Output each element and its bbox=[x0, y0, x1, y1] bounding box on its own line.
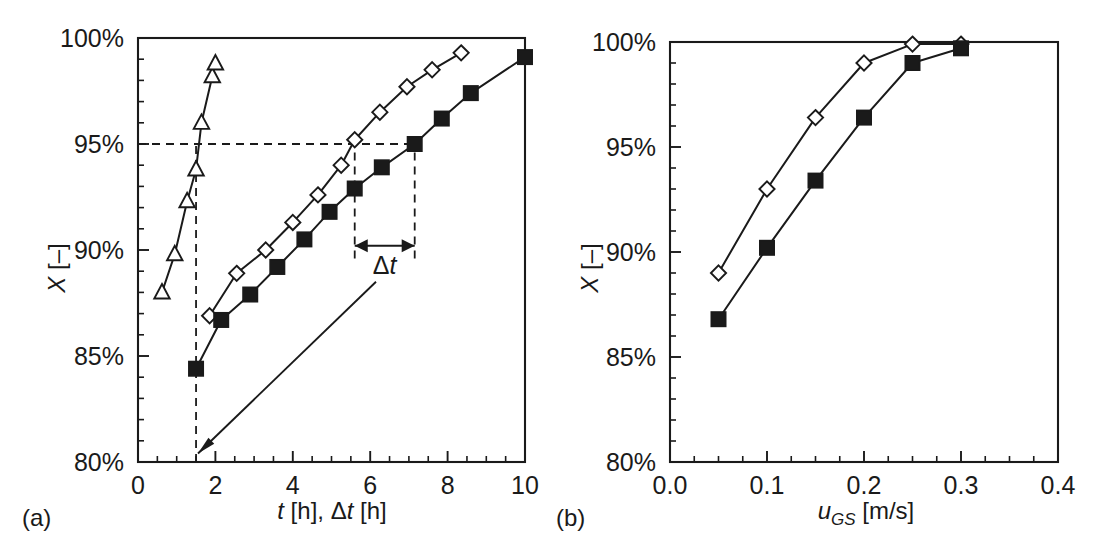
data-point-filled-square bbox=[297, 232, 311, 246]
panel-b-caption-label: (b) bbox=[556, 504, 585, 531]
x-tick-label: 0.4 bbox=[1041, 471, 1076, 499]
data-point-filled-square bbox=[322, 205, 336, 219]
y-tick-label: 95% bbox=[74, 130, 124, 158]
panel-a-x-axis-title: t [h], Δt [h] bbox=[277, 497, 386, 524]
data-point-filled-square bbox=[905, 56, 919, 70]
y-tick-label: 90% bbox=[606, 238, 656, 266]
x-tick-label: 0.1 bbox=[750, 471, 785, 499]
figure-background bbox=[0, 0, 1112, 546]
data-point-filled-square bbox=[270, 260, 284, 274]
y-tick-label: 95% bbox=[606, 133, 656, 161]
data-point-filled-square bbox=[857, 110, 871, 124]
x-tick-label: 0 bbox=[131, 471, 145, 499]
data-point-filled-square bbox=[375, 160, 389, 174]
data-point-filled-square bbox=[464, 86, 478, 100]
panel-a-caption-label: (a) bbox=[22, 504, 51, 531]
y-tick-label: 100% bbox=[60, 24, 124, 52]
panel-b-y-axis-title: X [–] bbox=[576, 243, 603, 293]
data-point-filled-square bbox=[435, 111, 449, 125]
y-tick-label: 80% bbox=[74, 448, 124, 476]
panel-a-y-axis-title: X [–] bbox=[43, 243, 70, 293]
x-tick-label: 8 bbox=[441, 471, 455, 499]
y-tick-label: 100% bbox=[592, 28, 656, 56]
figure-container: 024681080%85%90%95%100% Δt X [–] t [h], … bbox=[0, 0, 1112, 546]
data-point-filled-square bbox=[189, 362, 203, 376]
data-point-filled-square bbox=[243, 287, 257, 301]
x-tick-label: 0.3 bbox=[944, 471, 979, 499]
x-tick-label: 10 bbox=[511, 471, 539, 499]
y-tick-label: 80% bbox=[606, 448, 656, 476]
x-tick-label: 0.2 bbox=[847, 471, 882, 499]
x-tick-label: 0.0 bbox=[653, 471, 688, 499]
y-tick-label: 90% bbox=[74, 236, 124, 264]
data-point-filled-square bbox=[214, 313, 228, 327]
x-tick-label: 4 bbox=[286, 471, 300, 499]
data-point-filled-square bbox=[711, 312, 725, 326]
y-tick-label: 85% bbox=[606, 343, 656, 371]
x-tick-label: 6 bbox=[363, 471, 377, 499]
y-tick-label: 85% bbox=[74, 342, 124, 370]
data-point-filled-square bbox=[954, 41, 968, 55]
delta-t-annotation-label: Δt bbox=[373, 251, 398, 279]
data-point-filled-square bbox=[518, 50, 532, 64]
data-point-filled-square bbox=[760, 241, 774, 255]
data-point-filled-square bbox=[808, 173, 822, 187]
figure-svg: 024681080%85%90%95%100% Δt X [–] t [h], … bbox=[0, 0, 1112, 546]
data-point-filled-square bbox=[348, 181, 362, 195]
data-point-filled-square bbox=[408, 137, 422, 151]
x-tick-label: 2 bbox=[208, 471, 222, 499]
